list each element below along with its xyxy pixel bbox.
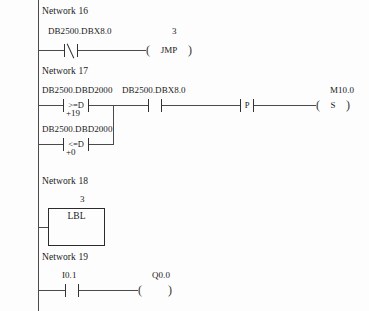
network-17-label: Network 17	[42, 66, 88, 76]
left-power-rail	[38, 0, 39, 311]
network-17-series-contact-operand: DB2500.DBX8.0	[122, 85, 186, 95]
network-16-coil-label: 3	[172, 26, 177, 36]
network-17-branch-connector	[113, 105, 114, 145]
network-18-lbl-block[interactable]: LBL	[48, 208, 105, 246]
network-17-branch-b-value: +0	[66, 147, 76, 157]
network-17-coil-label: M10.0	[330, 85, 354, 95]
network-18-wire-stub	[38, 227, 48, 228]
network-16-label: Network 16	[42, 6, 88, 16]
network-18-block-label: 3	[80, 194, 85, 204]
coil-paren-left: (	[138, 283, 142, 298]
network-18-label: Network 18	[42, 176, 88, 186]
network-16-wire-right	[78, 50, 146, 51]
network-19-contact-no[interactable]	[65, 284, 79, 297]
network-19-coil-label: Q0.0	[152, 270, 170, 280]
contact-bar-left	[148, 99, 149, 112]
network-17-wire-to-edge	[162, 105, 240, 106]
network-16-wire-left	[38, 50, 64, 51]
network-18-block-text: LBL	[49, 211, 104, 221]
network-19-wire-left	[38, 290, 65, 291]
network-19-wire-right	[79, 290, 138, 291]
network-17-branch-b-wire-left	[38, 144, 63, 145]
network-16-coil-jmp[interactable]: ( JMP )	[146, 43, 192, 58]
network-17-branch-b-wire-right	[89, 144, 113, 145]
contact-bar-left	[64, 44, 65, 57]
coil-paren-right: )	[188, 43, 192, 58]
network-17-edge-symbol: P	[240, 99, 254, 112]
network-16-contact-operand: DB2500.DBX8.0	[48, 26, 112, 36]
network-16-coil-text: JMP	[146, 43, 192, 58]
network-17-positive-edge-contact[interactable]: P	[240, 99, 254, 112]
network-17-branch-a-wire-left	[38, 105, 63, 106]
network-17-branch-a-value: +19	[66, 108, 80, 118]
network-17-coil-text: S	[316, 98, 350, 113]
coil-paren-right: )	[346, 98, 350, 113]
network-17-wire-to-coil	[254, 105, 316, 106]
ladder-diagram: Network 16 DB2500.DBX8.0 3 ( JMP ) Netwo…	[0, 0, 369, 311]
contact-bar-left	[65, 284, 66, 297]
contact-slash	[67, 44, 75, 59]
network-17-coil-set[interactable]: ( S )	[316, 98, 350, 113]
coil-paren-right: )	[168, 283, 172, 298]
network-17-wire-to-series	[113, 105, 148, 106]
network-17-branch-a-operand: DB2500.DBD2000	[42, 85, 112, 95]
network-19-contact-operand: I0.1	[62, 270, 76, 280]
network-16-contact-nc[interactable]	[64, 44, 78, 57]
network-17-branch-b-operand: DB2500.DBD2000	[42, 124, 112, 134]
network-17-branch-a-wire-right	[89, 105, 113, 106]
network-17-series-contact-no[interactable]	[148, 99, 162, 112]
network-19-coil-output[interactable]: ( )	[138, 283, 172, 298]
network-17-rail-branch-connector	[38, 105, 39, 145]
network-19-label: Network 19	[42, 252, 88, 262]
